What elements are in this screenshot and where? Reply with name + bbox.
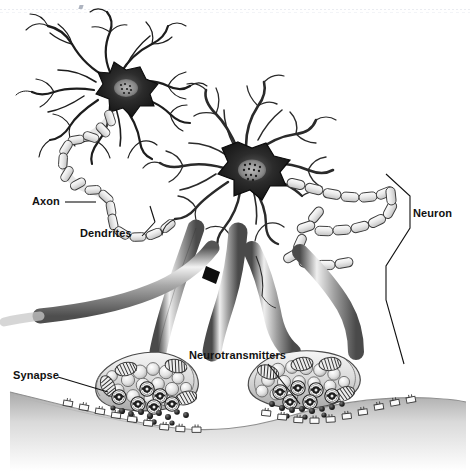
soma-upper — [96, 62, 158, 117]
leader-line-dendrites-b — [150, 206, 155, 222]
axon-trunks — [4, 228, 356, 352]
label-neurotransmitters: Neurotransmitters — [189, 350, 286, 361]
label-synapse: Synapse — [13, 370, 59, 381]
illustration-canvas: Axon Dendrites Synapse Neurotransmitters… — [0, 0, 470, 471]
label-dendrites: Dendrites — [80, 228, 132, 239]
myelinated-axon-upper — [58, 109, 177, 241]
lower-neuron — [143, 75, 398, 269]
label-neuron: Neuron — [413, 208, 452, 219]
soma-lower — [218, 142, 290, 200]
neuron-synapse-diagram — [0, 0, 470, 471]
label-axon: Axon — [32, 196, 60, 207]
